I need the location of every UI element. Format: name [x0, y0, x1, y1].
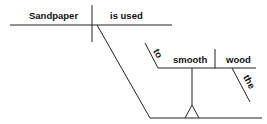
- verb-word: is used: [110, 10, 143, 21]
- object-word: wood: [225, 54, 251, 65]
- infinitive-stilt-diagonal: [97, 25, 150, 118]
- subject-word: Sandpaper: [29, 10, 78, 21]
- pedestal-triangle: [185, 105, 199, 118]
- the-word: the: [241, 73, 257, 91]
- infinitive-verb-word: smooth: [173, 54, 208, 65]
- sentence-diagram: Sandpaper is used to smooth wood the: [0, 0, 267, 124]
